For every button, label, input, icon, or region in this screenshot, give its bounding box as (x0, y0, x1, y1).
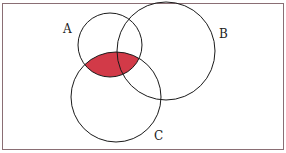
label-a: A (62, 22, 72, 36)
venn-diagram: A B C (0, 0, 286, 153)
label-b: B (219, 27, 228, 41)
label-c: C (154, 129, 163, 143)
frame-border (3, 4, 284, 150)
